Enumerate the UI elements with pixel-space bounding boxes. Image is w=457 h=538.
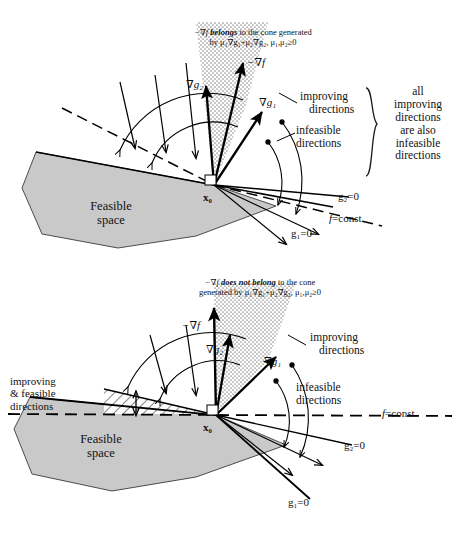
- top-caption-line2: by μ₁∇g₁+μ₂∇g₂, μ₁,μ₂≥0: [209, 37, 296, 47]
- feasible-space-line1-top: Feasible: [90, 199, 132, 213]
- bottom-caption-emphasis: does not belong: [221, 277, 276, 287]
- label-f-const-top: f=const.: [329, 212, 364, 224]
- label-infeasible-directions-bottom: infeasible directions: [296, 381, 378, 407]
- label-g1-line-top: g₁=0: [291, 227, 312, 239]
- label-grad-g2-bottom: ∇g₂: [206, 343, 223, 355]
- label-improving-feasible-directions: improving & feasible directions: [10, 375, 126, 412]
- top-caption: −∇f belongs to the cone generated by μ₁∇…: [148, 28, 358, 47]
- bottom-caption-post: to the cone: [276, 277, 315, 287]
- label-bracket-note-top: all improving directions are also infeas…: [382, 85, 454, 162]
- label--grad-f-top: −∇f: [247, 56, 265, 68]
- label-infeasible-directions-top: infeasible directions: [296, 124, 378, 150]
- label-improving-directions-bottom: improving directions: [310, 331, 392, 357]
- label-g2-line-bottom: g₂=0: [344, 439, 365, 451]
- panel-kkt-violated: −∇f does not belong to the cone generate…: [0, 269, 457, 538]
- bottom-caption: −∇f does not belong to the cone generate…: [145, 278, 375, 297]
- label-f-const-bottom: f=const.: [382, 407, 417, 419]
- bottom-caption-line2: generated by μ₁∇g₁+μ₂∇g₂, μ₁,μ₂≥0: [199, 287, 321, 297]
- panel-kkt-satisfied: −∇f belongs to the cone generated by μ₁∇…: [0, 0, 457, 269]
- feasible-space-line2-bottom: space: [87, 446, 115, 460]
- right-angle-marker: [207, 405, 218, 415]
- feasible-space-line2-top: space: [97, 213, 125, 227]
- label-x0-top: x₀: [203, 191, 212, 203]
- top-caption-post: to the cone generated: [237, 27, 312, 37]
- top-caption-emphasis: belongs: [210, 27, 237, 37]
- label-g1-line-bottom: g₁=0: [288, 496, 309, 508]
- label-grad-g1-bottom: ∇g₁: [264, 355, 281, 367]
- label-grad-g2-top: ∇g₂: [186, 78, 203, 90]
- top-caption-pre: −∇f: [194, 27, 210, 37]
- improving-label-leader: [288, 335, 306, 345]
- bottom-caption-pre: −∇f: [205, 277, 221, 287]
- label--grad-f-bottom: −∇f: [182, 319, 200, 331]
- improving-label-leader: [279, 93, 297, 103]
- label-g2-line-top: g₂=0: [338, 190, 359, 202]
- label-feasible-space-top: Feasible space: [62, 199, 160, 227]
- infeasible-label-leader: [277, 133, 295, 141]
- label-x0-bottom: x₀: [203, 421, 212, 433]
- right-angle-marker: [205, 175, 216, 185]
- label-improving-directions-top: improving directions: [300, 90, 382, 116]
- label-feasible-space-bottom: Feasible space: [52, 432, 150, 460]
- feasible-space-line1-bottom: Feasible: [80, 432, 122, 446]
- label-grad-g1-top: ∇g₁: [259, 96, 276, 108]
